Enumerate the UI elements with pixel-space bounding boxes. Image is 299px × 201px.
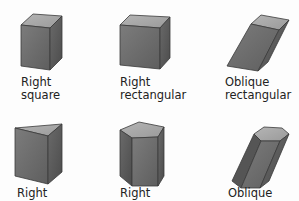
oblique-hexagonal-label: Oblique xyxy=(228,187,272,200)
oblique-hexagonal-label-line1: Oblique xyxy=(228,187,272,200)
oblique-hexagonal-prism-icon xyxy=(0,0,299,201)
